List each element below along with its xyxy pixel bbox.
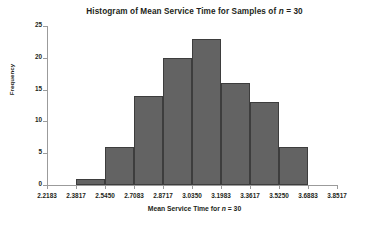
y-axis-tick-label: 25 — [35, 21, 42, 28]
histogram-bar — [163, 58, 192, 185]
y-axis-tick — [43, 90, 47, 91]
y-axis-title: Frequency — [8, 0, 18, 159]
x-axis-tick-label: 3.8517 — [327, 192, 347, 199]
histogram-figure: Histogram of Mean Service Time for Sampl… — [0, 0, 389, 228]
histogram-bar — [221, 83, 250, 185]
y-axis-tick-label: 10 — [35, 116, 42, 123]
x-axis-tick — [337, 185, 338, 189]
y-axis-tick-label: 0 — [38, 180, 42, 187]
y-axis-tick-label: 15 — [35, 85, 42, 92]
x-axis-tick — [308, 185, 309, 189]
histogram-bar — [134, 96, 163, 185]
x-axis-tick-label: 2.2183 — [37, 192, 57, 199]
chart-title-suffix: = 30 — [284, 7, 303, 16]
y-axis-tick — [43, 153, 47, 154]
x-axis-tick-label: 2.8717 — [153, 192, 173, 199]
histogram-bar — [105, 147, 134, 185]
chart-title: Histogram of Mean Service Time for Sampl… — [0, 7, 389, 16]
x-axis-tick — [76, 185, 77, 189]
histogram-bar — [250, 102, 279, 185]
x-axis-tick — [192, 185, 193, 189]
x-axis-tick — [279, 185, 280, 189]
x-axis-tick — [105, 185, 106, 189]
histogram-bar — [279, 147, 308, 185]
x-axis-tick-label: 2.7083 — [124, 192, 144, 199]
y-axis-tick — [43, 58, 47, 59]
x-axis-tick-label: 2.3817 — [66, 192, 86, 199]
histogram-bar — [192, 39, 221, 185]
x-axis-title-suffix: = 30 — [226, 205, 241, 212]
y-axis-line — [47, 26, 48, 186]
y-axis-tick — [43, 26, 47, 27]
x-axis-tick — [47, 185, 48, 189]
chart-title-prefix: Histogram of Mean Service Time for Sampl… — [86, 7, 278, 16]
x-axis-tick — [250, 185, 251, 189]
x-axis-tick-label: 3.1983 — [211, 192, 231, 199]
x-axis-title-prefix: Mean Service Time for — [148, 205, 222, 212]
histogram-bar — [76, 179, 105, 185]
x-axis-tick — [221, 185, 222, 189]
x-axis-tick — [134, 185, 135, 189]
x-axis-tick-label: 3.5250 — [269, 192, 289, 199]
x-axis-tick-label: 3.3617 — [240, 192, 260, 199]
x-axis-title: Mean Service Time for n = 30 — [0, 205, 389, 212]
y-axis-tick-label: 20 — [35, 53, 42, 60]
x-axis-tick-label: 3.6883 — [298, 192, 318, 199]
plot-area: 0510152025 2.21832.38172.54502.70832.871… — [47, 26, 337, 185]
x-axis-tick — [163, 185, 164, 189]
y-axis-tick-label: 5 — [38, 148, 42, 155]
x-axis-tick-label: 2.5450 — [95, 192, 115, 199]
x-axis-tick-label: 3.0350 — [182, 192, 202, 199]
y-axis-tick — [43, 121, 47, 122]
